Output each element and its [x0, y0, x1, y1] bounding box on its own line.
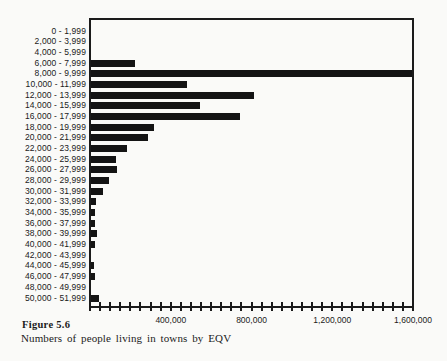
axis-tick [392, 302, 394, 311]
figure-caption: Numbers of people living in towns by EQV [21, 332, 231, 345]
category-label: 18,000 - 19,999 [2, 122, 86, 133]
axis-tick [190, 302, 192, 311]
bar [91, 70, 412, 77]
category-label: 42,000 - 43,999 [2, 250, 86, 261]
category-label: 36,000 - 37,999 [2, 218, 86, 229]
category-label: 0 - 1,999 [2, 26, 86, 37]
axis-tick [109, 302, 111, 311]
category-label: 14,000 - 15,999 [2, 100, 86, 111]
bar [91, 209, 95, 216]
bar [91, 177, 109, 184]
bar [91, 124, 154, 131]
bar [91, 241, 95, 248]
axis-tick [99, 302, 101, 311]
category-label: 30,000 - 31,999 [2, 186, 86, 197]
category-label: 48,000 - 49,999 [2, 282, 86, 293]
bar [91, 166, 117, 173]
category-label: 34,000 - 35,999 [2, 207, 86, 218]
axis-tick [362, 302, 364, 311]
axis-tick [412, 302, 414, 311]
category-label: 6,000 - 7,999 [2, 58, 86, 69]
bar [91, 262, 94, 269]
bar [91, 145, 127, 152]
category-label: 40,000 - 41,999 [2, 239, 86, 250]
axis-tick [261, 302, 263, 311]
category-label: 10,000 - 11,999 [2, 79, 86, 90]
bar [91, 220, 95, 227]
axis-tick [220, 302, 222, 311]
category-label: 20,000 - 21,999 [2, 132, 86, 143]
axis-tick [331, 302, 333, 311]
bar [91, 230, 97, 237]
axis-tick [281, 302, 283, 311]
scanned-figure-page: 0 - 1,9992,000 - 3,9994,000 - 5,9996,000… [0, 0, 447, 361]
bar [91, 273, 95, 280]
axis-tick [341, 302, 343, 311]
category-label: 8,000 - 9,999 [2, 68, 86, 79]
bar [91, 188, 103, 195]
axis-tick [321, 302, 323, 311]
axis-tick [301, 302, 303, 311]
plot-area [89, 18, 414, 308]
axis-tick [382, 302, 384, 311]
x-tick-label: 1,200,000 [313, 315, 351, 326]
axis-tick [251, 302, 253, 311]
category-label: 16,000 - 17,999 [2, 111, 86, 122]
axis-tick [230, 302, 232, 311]
axis-tick [180, 302, 182, 311]
axis-tick [291, 302, 293, 311]
bar [91, 81, 187, 88]
category-label: 44,000 - 45,999 [2, 260, 86, 271]
x-tick-label: 400,000 [155, 315, 186, 326]
category-label: 28,000 - 29,999 [2, 175, 86, 186]
category-label: 2,000 - 3,999 [2, 36, 86, 47]
axis-tick [139, 302, 141, 311]
axis-tick [150, 302, 152, 311]
bar [91, 198, 96, 205]
category-label: 32,000 - 33,999 [2, 196, 86, 207]
bar [91, 156, 116, 163]
category-label: 24,000 - 25,999 [2, 154, 86, 165]
axis-tick [89, 302, 91, 311]
category-label: 22,000 - 23,999 [2, 143, 86, 154]
axis-tick [240, 302, 242, 311]
category-label: 12,000 - 13,999 [2, 90, 86, 101]
axis-tick [170, 302, 172, 311]
figure-label: Figure 5.6 [22, 319, 70, 331]
axis-tick [210, 302, 212, 311]
axis-tick [200, 302, 202, 311]
bar [91, 113, 240, 120]
axis-tick [129, 302, 131, 311]
axis-tick [311, 302, 313, 311]
x-tick-label: 1,600,000 [394, 315, 432, 326]
axis-tick [160, 302, 162, 311]
category-label: 46,000 - 47,999 [2, 271, 86, 282]
bar [91, 295, 99, 302]
axis-tick [372, 302, 374, 311]
category-label: 26,000 - 27,999 [2, 164, 86, 175]
axis-tick [271, 302, 273, 311]
category-label: 38,000 - 39,999 [2, 228, 86, 239]
bar [91, 60, 135, 67]
bar [91, 134, 148, 141]
bar [91, 102, 200, 109]
axis-tick [402, 302, 404, 311]
category-label: 50,000 - 51,999 [2, 293, 86, 304]
category-label: 4,000 - 5,999 [2, 47, 86, 58]
axis-tick [351, 302, 353, 311]
bar [91, 92, 254, 99]
x-tick-label: 800,000 [236, 315, 267, 326]
axis-tick [119, 302, 121, 311]
